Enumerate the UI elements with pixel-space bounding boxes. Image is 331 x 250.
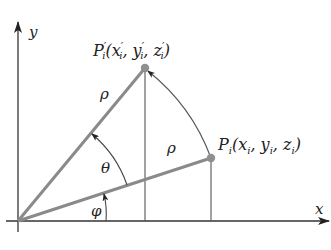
rotated-point-label: P′i(x′i, y′i, z′i) (92, 40, 170, 61)
original-radius-line (18, 158, 211, 221)
original-point-marker (207, 154, 215, 162)
rho-label-rotated: ρ (99, 85, 109, 103)
theta-label: θ (101, 159, 110, 177)
y-axis-label: y (28, 23, 38, 41)
rotated-point-marker (141, 64, 149, 72)
rotation-arc (148, 71, 211, 158)
phi-arc (104, 194, 106, 221)
original-point-label: Pi(xi, yi, zi) (217, 135, 301, 156)
phi-label: φ (91, 202, 102, 220)
rotated-radius-line (18, 68, 145, 221)
x-axis-label: x (315, 200, 324, 218)
rho-label-original: ρ (166, 139, 176, 157)
rotation-diagram: y x P′i(x′i, y′i, z′i) Pi(xi, yi, zi) ρ … (0, 0, 331, 250)
